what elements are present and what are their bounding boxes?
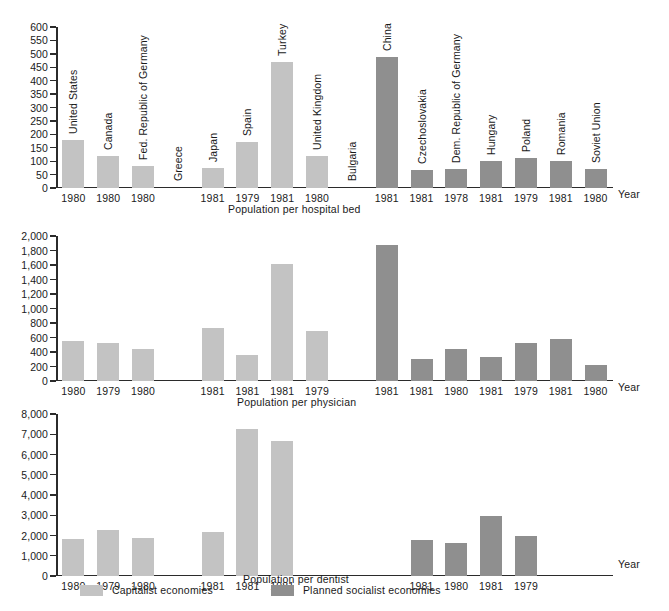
bar bbox=[62, 341, 84, 381]
y-axis-tick-label: 250 bbox=[30, 116, 48, 126]
bar bbox=[132, 349, 154, 381]
bar bbox=[515, 343, 537, 381]
legend-swatch-socialist bbox=[271, 585, 294, 596]
y-axis-tick bbox=[50, 40, 56, 41]
bar bbox=[97, 530, 119, 576]
y-axis-tick bbox=[50, 134, 56, 135]
y-axis-tick-label: 1,400 bbox=[21, 275, 48, 285]
y-axis-tick bbox=[50, 67, 56, 68]
bar-category-label: Greece bbox=[172, 146, 183, 181]
y-axis-tick-label: 0 bbox=[42, 183, 48, 193]
y-axis-tick bbox=[50, 107, 56, 108]
bar-category-label: Fed. Republic of Germany bbox=[138, 35, 149, 160]
x-axis-year-word: Year bbox=[618, 381, 640, 393]
y-axis-line bbox=[56, 236, 58, 381]
bar bbox=[306, 156, 328, 188]
bar bbox=[62, 539, 84, 576]
y-axis-tick bbox=[50, 575, 56, 576]
legend-label-capitalist: Capitalist economies bbox=[112, 584, 213, 596]
y-axis-tick bbox=[50, 380, 56, 381]
y-axis-tick bbox=[50, 515, 56, 516]
bar bbox=[271, 264, 293, 381]
bar bbox=[445, 169, 467, 188]
bar-category-label: Japan bbox=[207, 133, 218, 162]
y-axis-tick bbox=[50, 120, 56, 121]
y-axis-tick-label: 450 bbox=[30, 62, 48, 72]
bar bbox=[550, 161, 572, 188]
y-axis-tick-label: 1,000 bbox=[21, 304, 48, 314]
x-axis-tick-label: 1980 bbox=[574, 385, 618, 397]
y-axis-tick bbox=[50, 250, 56, 251]
bar-category-label: Spain bbox=[242, 109, 253, 136]
y-axis-tick-label: 1,600 bbox=[21, 260, 48, 270]
bar-category-label: Turkey bbox=[277, 24, 288, 56]
y-axis-tick-label: 600 bbox=[30, 333, 48, 343]
y-axis-tick bbox=[50, 53, 56, 54]
bar-category-label: Canada bbox=[103, 112, 114, 149]
x-axis-year-word: Year bbox=[618, 558, 640, 570]
y-axis-tick-label: 50 bbox=[36, 170, 48, 180]
bar-category-label: Romania bbox=[555, 112, 566, 155]
bar bbox=[445, 543, 467, 576]
bar bbox=[480, 357, 502, 381]
bar-category-label: Czechoslovakia bbox=[416, 89, 427, 164]
legend-label-socialist: Planned socialist economies bbox=[303, 584, 441, 596]
bar-category-label: Soviet Union bbox=[590, 102, 601, 163]
legend-item-socialist: Planned socialist economies bbox=[271, 584, 441, 596]
y-axis-tick-label: 200 bbox=[30, 129, 48, 139]
x-axis-tick-label: 1980 bbox=[121, 385, 165, 397]
y-axis-tick-label: 400 bbox=[30, 347, 48, 357]
bar bbox=[236, 355, 258, 381]
x-axis-tick-label: 1979 bbox=[504, 580, 548, 592]
bar bbox=[132, 166, 154, 188]
y-axis-tick bbox=[50, 187, 56, 188]
x-axis-year-word: Year bbox=[618, 188, 640, 200]
y-axis-tick-label: 1,000 bbox=[21, 551, 48, 561]
y-axis-tick-label: 0 bbox=[42, 571, 48, 581]
bar bbox=[202, 532, 224, 576]
y-axis-tick bbox=[50, 161, 56, 162]
y-axis-tick-label: 2,000 bbox=[21, 531, 48, 541]
y-axis-tick-label: 350 bbox=[30, 89, 48, 99]
y-axis-tick-label: 800 bbox=[30, 318, 48, 328]
y-axis-tick bbox=[50, 147, 56, 148]
y-axis-tick-label: 100 bbox=[30, 156, 48, 166]
y-axis-tick-label: 3,000 bbox=[21, 510, 48, 520]
y-axis-tick bbox=[50, 555, 56, 556]
y-axis-tick bbox=[50, 308, 56, 309]
y-axis-tick-label: 7,000 bbox=[21, 429, 48, 439]
bar-category-label: China bbox=[381, 23, 392, 51]
bar bbox=[271, 441, 293, 576]
bar-category-label: Bulgaria bbox=[346, 142, 357, 181]
y-axis-tick bbox=[50, 26, 56, 27]
bar bbox=[550, 339, 572, 381]
bar bbox=[62, 140, 84, 188]
y-axis-tick bbox=[50, 454, 56, 455]
legend-swatch-capitalist bbox=[80, 585, 103, 596]
y-axis-line bbox=[56, 414, 58, 576]
plot-area: 050100150200250300350400450500550600Unit… bbox=[56, 27, 613, 188]
y-axis-tick bbox=[50, 264, 56, 265]
x-axis-tick-label: 1980 bbox=[121, 192, 165, 204]
bar bbox=[585, 365, 607, 381]
bar-category-label: United States bbox=[68, 69, 79, 133]
bar bbox=[411, 359, 433, 381]
y-axis-tick-label: 4,000 bbox=[21, 490, 48, 500]
bar bbox=[306, 331, 328, 381]
y-axis-tick-label: 200 bbox=[30, 362, 48, 372]
bar bbox=[376, 57, 398, 188]
y-axis-tick bbox=[50, 293, 56, 294]
y-axis-tick bbox=[50, 434, 56, 435]
y-axis-tick bbox=[50, 80, 56, 81]
y-axis-tick-label: 150 bbox=[30, 143, 48, 153]
y-axis-tick bbox=[50, 322, 56, 323]
y-axis-tick bbox=[50, 366, 56, 367]
bar bbox=[585, 169, 607, 188]
y-axis-tick bbox=[50, 413, 56, 414]
bar bbox=[411, 540, 433, 576]
chart-caption: Population per physician bbox=[237, 396, 356, 408]
bar bbox=[411, 170, 433, 188]
y-axis-tick-label: 2,000 bbox=[21, 231, 48, 241]
bar bbox=[132, 538, 154, 576]
y-axis-tick-label: 8,000 bbox=[21, 409, 48, 419]
